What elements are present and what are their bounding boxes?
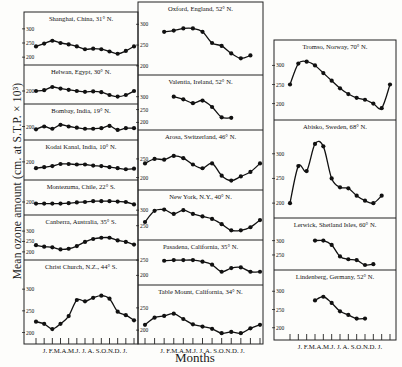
data-point bbox=[83, 240, 87, 244]
station-panel: Lindenberg, Germany, 52° N.200250300 bbox=[272, 273, 374, 331]
y-tick-label: 200 bbox=[26, 54, 35, 60]
data-point bbox=[363, 199, 367, 203]
ozone-curve bbox=[145, 209, 260, 231]
month-tick-labels: J. F.M.A.M.J. J. A. S.O.N.D. J. bbox=[43, 347, 128, 354]
data-point bbox=[229, 266, 233, 270]
data-point bbox=[34, 320, 38, 324]
data-point bbox=[91, 127, 95, 131]
data-point bbox=[296, 61, 300, 65]
y-tick-label: 200 bbox=[276, 325, 285, 331]
data-point bbox=[288, 82, 292, 86]
data-point bbox=[330, 79, 334, 83]
data-point bbox=[258, 270, 262, 274]
data-point bbox=[338, 309, 342, 313]
ozone-curve bbox=[290, 141, 382, 203]
data-point bbox=[91, 47, 95, 51]
station-panel: Montezuma, Chile, 22° S.200 bbox=[22, 183, 138, 215]
data-point bbox=[107, 199, 111, 203]
data-point bbox=[99, 47, 103, 51]
data-point bbox=[346, 313, 350, 317]
data-point bbox=[210, 217, 214, 221]
data-point bbox=[305, 169, 309, 173]
y-tick-label: 200 bbox=[140, 272, 149, 278]
data-point bbox=[258, 323, 262, 327]
data-point bbox=[75, 298, 79, 302]
data-point bbox=[321, 144, 325, 148]
data-point bbox=[355, 194, 359, 198]
data-point bbox=[191, 162, 195, 166]
data-point bbox=[67, 247, 71, 251]
data-point bbox=[313, 142, 317, 146]
data-point bbox=[355, 258, 359, 262]
data-point bbox=[346, 257, 350, 261]
data-point bbox=[58, 322, 62, 326]
data-point bbox=[200, 166, 204, 170]
data-point bbox=[91, 163, 95, 167]
data-point bbox=[132, 318, 136, 322]
data-point bbox=[75, 200, 79, 204]
y-tick-label: 200 bbox=[140, 175, 149, 181]
data-point bbox=[67, 314, 71, 318]
data-point bbox=[371, 201, 375, 205]
data-point bbox=[313, 63, 317, 67]
data-point bbox=[42, 41, 46, 45]
station-panel: Lerwick, Shetland Isles, 60° N.250300 bbox=[272, 221, 396, 270]
data-point bbox=[124, 200, 128, 204]
data-point bbox=[58, 87, 62, 91]
panel-title: Tromso, Norway, 70° N. bbox=[303, 43, 368, 50]
data-point bbox=[99, 164, 103, 168]
y-tick-label: 250 bbox=[140, 305, 149, 311]
data-point bbox=[58, 162, 62, 166]
ozone-curve bbox=[290, 61, 390, 109]
data-point bbox=[99, 199, 103, 203]
data-point bbox=[152, 209, 156, 213]
data-point bbox=[67, 162, 71, 166]
data-point bbox=[220, 270, 224, 274]
data-point bbox=[83, 127, 87, 131]
panel-title: Abisko, Sweden, 68° N. bbox=[303, 123, 367, 130]
data-point bbox=[91, 237, 95, 241]
data-point bbox=[50, 85, 54, 89]
data-point bbox=[162, 30, 166, 34]
data-point bbox=[116, 52, 120, 56]
data-point bbox=[50, 164, 54, 168]
data-point bbox=[172, 95, 176, 99]
data-point bbox=[83, 200, 87, 204]
data-point bbox=[83, 47, 87, 51]
data-point bbox=[116, 128, 120, 132]
data-point bbox=[116, 95, 120, 99]
y-tick-label: 300 bbox=[26, 228, 35, 234]
station-panel: Kodai Kanal, India, 10° N.200 bbox=[22, 143, 138, 180]
panel-title: Lindenberg, Germany, 52° N. bbox=[296, 273, 375, 280]
data-point bbox=[239, 228, 243, 232]
data-point bbox=[172, 154, 176, 158]
data-point bbox=[181, 258, 185, 262]
data-point bbox=[116, 166, 120, 170]
column-frame bbox=[24, 12, 138, 344]
data-point bbox=[220, 331, 224, 335]
data-point bbox=[124, 93, 128, 97]
data-point bbox=[162, 314, 166, 318]
data-point bbox=[42, 165, 46, 169]
panel-title: Helwan, Egypt, 30° N. bbox=[51, 68, 111, 75]
data-point bbox=[200, 324, 204, 328]
data-point bbox=[239, 56, 243, 60]
data-point bbox=[220, 115, 224, 119]
y-tick-label: 300 bbox=[26, 26, 35, 32]
y-tick-label: 200 bbox=[140, 119, 149, 125]
data-point bbox=[116, 310, 120, 314]
data-point bbox=[132, 44, 136, 48]
y-tick-label: 300 bbox=[276, 62, 285, 68]
data-point bbox=[124, 126, 128, 130]
data-point bbox=[99, 236, 103, 240]
data-point bbox=[132, 126, 136, 130]
panel-title: Lerwick, Shetland Isles, 60° N. bbox=[294, 221, 377, 228]
panel-title: Kodai Kanal, India, 10° N. bbox=[46, 143, 117, 150]
y-tick-label: 250 bbox=[276, 252, 285, 258]
y-tick-label: 250 bbox=[140, 156, 149, 162]
panel-title: Oxford, England, 52° N. bbox=[168, 5, 233, 12]
y-tick-label: 200 bbox=[26, 159, 35, 165]
data-point bbox=[34, 243, 38, 247]
data-point bbox=[220, 222, 224, 226]
y-tick-label: 300 bbox=[140, 21, 149, 27]
